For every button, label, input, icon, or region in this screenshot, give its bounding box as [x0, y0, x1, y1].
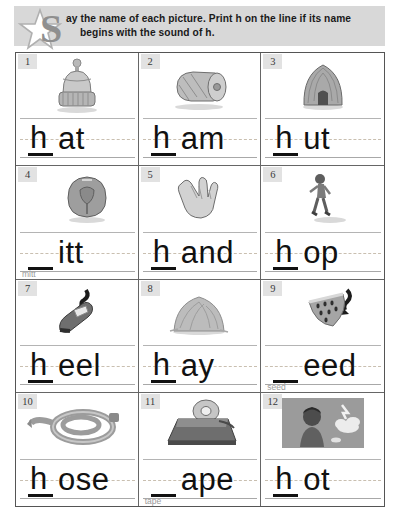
writing-lines: ape	[143, 459, 258, 503]
answer-letter: h	[153, 236, 171, 267]
exercise-grid: 1 h at	[15, 52, 385, 507]
guide-line-bottom	[265, 157, 381, 158]
word-row: h op	[273, 232, 338, 271]
word-row: itt	[28, 232, 84, 271]
exercise-item[interactable]: 1 h at	[16, 53, 139, 166]
picture-heel-shoe	[16, 282, 138, 342]
word-row: h eel	[28, 345, 101, 384]
picture-hot-sun-boy	[261, 395, 384, 455]
guide-line-bottom	[143, 384, 258, 385]
answer-blank[interactable]: h	[28, 118, 55, 157]
word-remainder: ape	[178, 464, 234, 498]
word-row: h at	[28, 118, 85, 157]
answer-letter: h	[275, 463, 293, 494]
answer-blank[interactable]: h	[151, 232, 178, 271]
exercise-item[interactable]: 3 h ut	[261, 53, 384, 166]
answer-blank[interactable]: h	[28, 459, 55, 498]
word-remainder: am	[178, 123, 225, 157]
exercise-item[interactable]: 6 h op	[261, 166, 384, 279]
guide-line-bottom	[20, 157, 135, 158]
word-remainder: and	[178, 237, 234, 271]
writing-lines: eed	[265, 345, 381, 389]
blank-rule	[28, 153, 53, 156]
word-remainder: eel	[55, 350, 101, 384]
answer-blank[interactable]: h	[273, 232, 300, 271]
exercise-item[interactable]: 7 h eel	[16, 280, 139, 393]
exercise-item[interactable]: 11 tape ape	[139, 393, 262, 506]
word-remainder: ose	[55, 464, 109, 498]
blank-rule	[151, 494, 176, 497]
word-row: h and	[151, 232, 234, 271]
guide-line-bottom	[265, 384, 381, 385]
word-remainder: ot	[300, 464, 330, 498]
exercise-item[interactable]: 12 h	[261, 393, 384, 506]
picture-tape-dispenser	[139, 395, 261, 455]
word-row: eed	[273, 345, 356, 384]
answer-letter: h	[153, 349, 171, 380]
exercise-item[interactable]: 2 h am	[139, 53, 262, 166]
writing-lines: h ot	[265, 459, 381, 503]
answer-blank[interactable]: h	[273, 118, 300, 157]
guide-line-bottom	[143, 271, 258, 272]
writing-lines: h ut	[265, 118, 381, 162]
exercise-item[interactable]: 9 seed	[261, 280, 384, 393]
guide-line-bottom	[20, 271, 135, 272]
answer-blank[interactable]: h	[151, 118, 178, 157]
answer-blank[interactable]	[273, 345, 300, 384]
writing-lines: h eel	[20, 345, 135, 389]
guide-line-bottom	[20, 384, 135, 385]
word-remainder: at	[55, 123, 85, 157]
word-row: h ot	[273, 459, 330, 498]
picture-watermelon-seed	[261, 282, 384, 342]
guide-line-bottom	[265, 498, 381, 499]
writing-lines: h and	[143, 232, 258, 276]
picture-hand	[139, 168, 261, 228]
blank-rule	[273, 267, 298, 270]
word-remainder: itt	[55, 237, 84, 271]
exercise-item[interactable]: 8 h ay	[139, 280, 262, 393]
blank-rule	[273, 494, 298, 497]
picture-ham	[139, 55, 261, 115]
picture-hop	[261, 168, 384, 228]
writing-lines: h am	[143, 118, 258, 162]
picture-hose	[16, 395, 138, 455]
blank-rule	[28, 494, 53, 497]
writing-lines: h op	[265, 232, 381, 276]
instruction-line-2: begins with the sound of h.	[66, 26, 376, 40]
exercise-item[interactable]: 5 h and	[139, 166, 262, 279]
guide-line-bottom	[143, 498, 258, 499]
blank-rule	[151, 380, 176, 383]
guide-line-bottom	[20, 498, 135, 499]
guide-line-bottom	[143, 157, 258, 158]
answer-blank[interactable]	[28, 232, 55, 271]
word-row: h ose	[28, 459, 109, 498]
exercise-item[interactable]: 4 mitt itt	[16, 166, 139, 279]
writing-lines: h ose	[20, 459, 135, 503]
answer-letter: h	[275, 236, 293, 267]
drop-cap-s: S	[40, 9, 62, 49]
instruction-text: ay the name of each picture. Print h on …	[66, 12, 376, 39]
instruction-seg-1: ay the name of each picture. Print	[66, 13, 235, 24]
word-row: h am	[151, 118, 225, 157]
writing-lines: h at	[20, 118, 135, 162]
answer-blank[interactable]: h	[151, 345, 178, 384]
answer-blank[interactable]	[151, 459, 178, 498]
instruction-seg-4: .	[212, 27, 215, 38]
blank-rule	[151, 267, 176, 270]
blank-rule	[273, 380, 298, 383]
answer-letter: h	[275, 122, 293, 153]
exercise-item[interactable]: 10 h ose	[16, 393, 139, 506]
picture-winter-hat	[16, 55, 138, 115]
answer-letter: h	[30, 463, 48, 494]
answer-blank[interactable]: h	[273, 459, 300, 498]
picture-mitt	[16, 168, 138, 228]
answer-letter: h	[30, 122, 48, 153]
writing-lines: h ay	[143, 345, 258, 389]
blank-rule	[28, 380, 53, 383]
answer-letter: h	[30, 349, 48, 380]
instruction-seg-2: on the line if its name	[242, 13, 351, 24]
word-remainder: ay	[178, 350, 215, 384]
answer-blank[interactable]: h	[28, 345, 55, 384]
blank-rule	[273, 153, 298, 156]
answer-letter: h	[153, 122, 171, 153]
